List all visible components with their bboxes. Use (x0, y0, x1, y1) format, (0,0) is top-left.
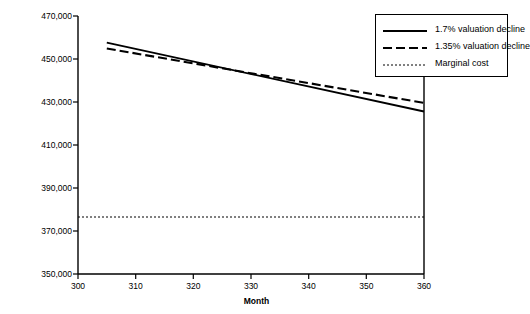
legend-item-valuation-decline-1-35: 1.35% valuation decline (382, 37, 499, 54)
x-tick-label: 360 (417, 281, 431, 291)
x-axis-title: Month (0, 296, 513, 306)
solid-line-key (382, 23, 428, 35)
x-tick-label: 350 (359, 281, 373, 291)
legend-item-marginal-cost: Marginal cost (382, 54, 499, 71)
x-tick-label: 330 (244, 281, 258, 291)
x-tick-label: 320 (186, 281, 200, 291)
dotted-line-key (382, 57, 428, 69)
x-tick-label: 310 (129, 281, 143, 291)
legend-label: 1.35% valuation decline (435, 41, 530, 51)
x-tick-label: 340 (302, 281, 316, 291)
chart-legend: 1.7% valuation decline 1.35% valuation d… (375, 14, 508, 77)
legend-item-valuation-decline-1-7: 1.7% valuation decline (382, 20, 499, 37)
legend-label: 1.7% valuation decline (435, 24, 525, 34)
x-tick-label: 300 (71, 281, 85, 291)
legend-label: Marginal cost (435, 58, 489, 68)
dashed-line-key (382, 40, 428, 52)
